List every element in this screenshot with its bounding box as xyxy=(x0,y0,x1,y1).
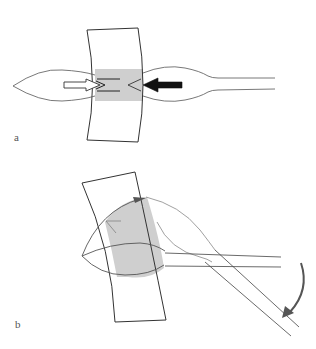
shaded-region-a xyxy=(95,69,143,101)
panel-b xyxy=(82,172,304,336)
rotation-arrow-icon xyxy=(290,263,304,312)
diagram-figure xyxy=(0,0,316,349)
right-shape-lower-a xyxy=(143,89,275,101)
rod-lower-b xyxy=(165,266,281,267)
panel-label-b: b xyxy=(15,318,21,330)
panel-a xyxy=(13,28,275,142)
solid-arrow-icon xyxy=(143,78,182,92)
rod-upper-b xyxy=(165,253,281,257)
diagonal-rod-lower-b xyxy=(205,262,291,336)
panel-label-a: a xyxy=(14,131,19,143)
rotation-arrowhead-icon xyxy=(282,306,294,318)
right-shape-upper-a xyxy=(143,67,275,78)
handle-bulge-inner-b xyxy=(157,222,212,262)
hollow-arrow-icon xyxy=(64,79,100,91)
